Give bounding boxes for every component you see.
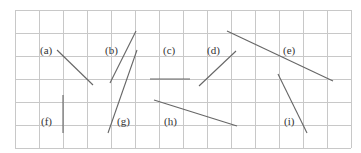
segment-label-g: (g) (117, 116, 130, 127)
segment-label-b: (b) (105, 45, 118, 56)
segment-label-h: (h) (164, 116, 177, 127)
segment-label-i: (i) (284, 116, 294, 127)
segment-label-c: (c) (163, 45, 175, 56)
segment-label-d: (d) (207, 45, 220, 56)
segment-label-e: (e) (283, 45, 295, 56)
segment-label-a: (a) (40, 45, 52, 56)
grid-figure (0, 0, 361, 153)
segment-label-f: (f) (41, 116, 52, 127)
